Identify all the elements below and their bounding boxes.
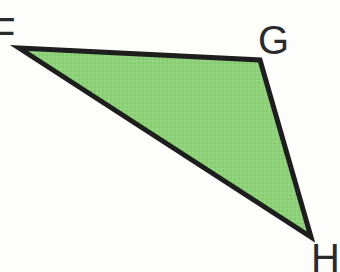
vertex-label-f: F: [0, 12, 15, 52]
triangle-FGH-shape: [19, 48, 311, 237]
vertex-label-h: H: [311, 238, 340, 272]
geometry-figure: F G H: [0, 0, 340, 272]
vertex-label-g: G: [258, 20, 289, 60]
